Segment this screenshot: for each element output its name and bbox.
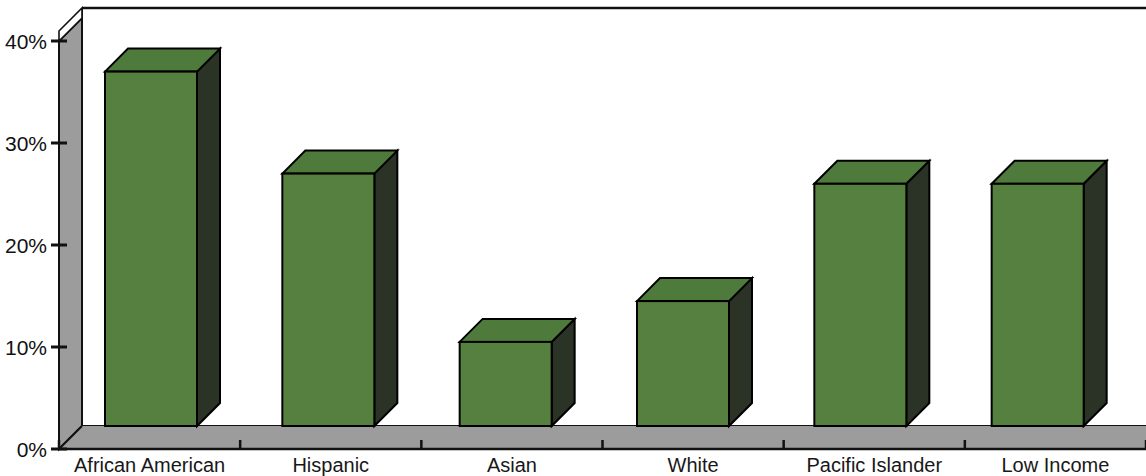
bar-side-face: [374, 151, 397, 426]
bar-chart-3d: 0%10%20%30%40% African AmericanHispanicA…: [0, 0, 1146, 476]
left-side-wall: [59, 8, 82, 449]
x-axis-category-label: White: [668, 454, 719, 476]
bar-column: [105, 49, 220, 426]
bar-front-face: [637, 301, 729, 426]
bar-front-face: [814, 184, 906, 426]
bar-side-face: [729, 278, 752, 426]
y-axis-tick-label: 10%: [5, 336, 47, 359]
x-axis-category-label: Pacific Islander: [806, 454, 942, 476]
x-axis-category-label: Low Income: [1001, 454, 1109, 476]
y-axis-tick-label: 0%: [17, 438, 47, 461]
y-axis-ticks: 0%10%20%30%40%: [5, 30, 67, 461]
x-axis-labels: African AmericanHispanicAsianWhitePacifi…: [74, 454, 1109, 476]
bar-column: [637, 278, 752, 426]
x-axis-category-label: Asian: [487, 454, 537, 476]
chart-canvas: 0%10%20%30%40% African AmericanHispanicA…: [0, 0, 1146, 476]
bar-side-face: [197, 49, 220, 426]
plot-area: [82, 8, 1146, 426]
bar-front-face: [282, 174, 374, 426]
bar-front-face: [460, 342, 552, 426]
bar-column: [460, 319, 575, 426]
y-axis-tick-label: 30%: [5, 132, 47, 155]
x-axis-category-label: Hispanic: [292, 454, 369, 476]
back-wall-plane: [82, 8, 1146, 426]
left-wall-face: [59, 18, 82, 449]
y-axis-tick-label: 20%: [5, 234, 47, 257]
bar-column: [992, 161, 1107, 426]
bar-column: [282, 151, 397, 426]
bar-front-face: [105, 72, 197, 426]
bar-front-face: [992, 184, 1084, 426]
bar-column: [814, 161, 929, 426]
bar-side-face: [1084, 161, 1107, 426]
x-axis-category-label: African American: [74, 454, 225, 476]
y-axis-tick-label: 40%: [5, 30, 47, 53]
bar-side-face: [906, 161, 929, 426]
